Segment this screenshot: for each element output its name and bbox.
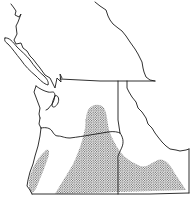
range-stipple bbox=[29, 105, 186, 194]
bc-coastline bbox=[11, 4, 62, 88]
inlet-outline bbox=[52, 95, 59, 107]
washington-coast bbox=[39, 118, 41, 128]
bc-alberta-border bbox=[95, 2, 155, 81]
vancouver-island-outline bbox=[5, 38, 49, 85]
washington-idaho-border bbox=[118, 81, 120, 133]
olympic-peninsula-coast bbox=[34, 86, 40, 118]
us-canada-border bbox=[60, 79, 155, 81]
range-area-sw-oregon bbox=[29, 149, 49, 193]
idaho-montana-border bbox=[127, 81, 189, 151]
range-map bbox=[0, 0, 195, 197]
